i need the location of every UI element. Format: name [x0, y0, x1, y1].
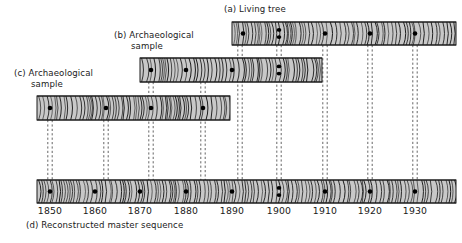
marker-ring-a-1910	[323, 31, 328, 36]
marker-ring-a-1900	[277, 28, 282, 32]
marker-ring-d-1880	[184, 189, 189, 194]
marker-ring-b-1880	[184, 68, 189, 73]
marker-ring-d-1850	[48, 189, 53, 194]
ring-diagram-canvas	[0, 0, 462, 243]
core-sample-b	[140, 58, 322, 82]
dendrochronology-figure: (a) Living tree (b) Archaeological sampl…	[0, 0, 462, 243]
marker-ring-a-1930	[413, 31, 418, 36]
core-sample-a	[232, 22, 456, 45]
marker-ring-d-1900	[277, 186, 282, 190]
marker-ring-d-1920	[368, 189, 373, 194]
marker-ring-b-1900	[277, 65, 282, 69]
marker-ring-c-1870	[149, 106, 154, 111]
marker-ring-d-1870	[138, 189, 143, 194]
marker-ring-a-1890	[241, 31, 246, 36]
core-sample-d	[37, 180, 457, 203]
marker-ring-d-1910	[323, 189, 328, 194]
marker-ring-b-1900	[277, 72, 282, 76]
marker-ring-a-1900	[277, 35, 282, 39]
core-sample-c	[37, 96, 231, 120]
marker-ring-b-1890	[230, 68, 235, 73]
marker-ring-d-1900	[277, 193, 282, 197]
marker-ring-d-1860	[93, 189, 98, 194]
marker-ring-c-1850	[48, 106, 53, 111]
marker-ring-b-1870	[149, 68, 154, 73]
marker-ring-a-1920	[368, 31, 373, 36]
core-samples-group	[37, 22, 457, 203]
marker-ring-d-1930	[413, 189, 418, 194]
marker-ring-d-1890	[230, 189, 235, 194]
marker-ring-c-1880	[201, 106, 206, 111]
marker-ring-c-1860	[104, 106, 109, 111]
